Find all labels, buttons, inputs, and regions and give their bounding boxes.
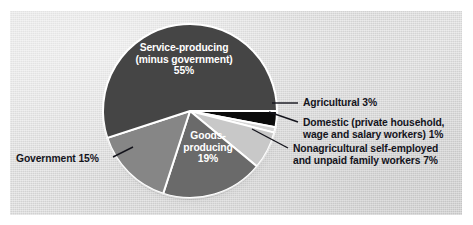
slice-label-agricultural: Agricultural 3%: [303, 97, 377, 109]
pie-chart-figure: Service-producing (minus government) 55%…: [0, 0, 473, 225]
slice-label-service-producing: Service-producing (minus government) 55%: [118, 42, 250, 77]
slice-label-goods-producing: Goods- producing 19%: [177, 130, 239, 165]
slice-label-nonagricultural: Nonagricultural self-employed and unpaid…: [293, 143, 465, 166]
slice-label-domestic: Domestic (private household, wage and sa…: [303, 117, 463, 140]
slice-label-government: Government 15%: [16, 153, 99, 165]
